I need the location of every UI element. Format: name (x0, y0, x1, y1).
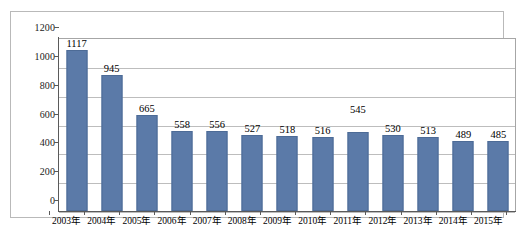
y-axis-tick-label: 600 (40, 108, 55, 119)
plot-area: 1117945665558556527518516545530513489485 (59, 38, 516, 211)
bar[interactable] (242, 135, 263, 211)
y-axis-tick-label: 400 (40, 137, 55, 148)
x-axis-category-label: 2013年 (404, 213, 433, 227)
x-axis-tick-mark (154, 211, 155, 215)
x-axis-category-label: 2003年 (52, 213, 81, 227)
x-axis-category-label: 2014年 (439, 213, 468, 227)
bar-value-label: 527 (244, 123, 260, 134)
bar[interactable] (66, 50, 87, 211)
bar-slot: 513 (411, 39, 446, 211)
bar-slot: 516 (305, 39, 340, 211)
bar[interactable] (172, 131, 193, 211)
bar[interactable] (418, 137, 439, 211)
bar-value-label: 545 (350, 104, 366, 115)
x-axis-category-label: 2008年 (228, 213, 257, 227)
bar-value-label: 558 (174, 119, 190, 130)
x-axis-tick-mark (260, 211, 261, 215)
bar-slot: 556 (200, 39, 235, 211)
x-axis-tick-mark (84, 211, 85, 215)
bar[interactable] (347, 132, 368, 211)
x-axis-tick-mark (190, 211, 191, 215)
x-axis-category-label: 2004年 (87, 213, 116, 227)
x-axis-tick-mark (330, 211, 331, 215)
bar-value-label: 556 (209, 119, 225, 130)
bar-value-label: 516 (315, 125, 331, 136)
bar-slot: 665 (129, 39, 164, 211)
bar-slot: 545 (340, 39, 375, 211)
bar-slot: 489 (446, 39, 481, 211)
bar[interactable] (488, 141, 509, 211)
x-axis-category-label: 2009年 (263, 213, 292, 227)
y-axis-tick-label: 1000 (35, 50, 55, 61)
bar-slot: 527 (235, 39, 270, 211)
bar[interactable] (277, 136, 298, 211)
bar[interactable] (101, 75, 122, 211)
bar-value-label: 1117 (66, 38, 86, 49)
x-axis-category-label: 2012年 (368, 213, 397, 227)
bar-value-label: 485 (491, 129, 507, 140)
x-axis-tick-mark (471, 211, 472, 215)
bar-value-label: 518 (280, 124, 296, 135)
bar[interactable] (207, 131, 228, 211)
bar-slot: 485 (481, 39, 516, 211)
y-axis-tick-mark (54, 27, 59, 28)
bar-value-label: 665 (139, 103, 155, 114)
y-axis-tick-label: 800 (40, 79, 55, 90)
bar-slot: 518 (270, 39, 305, 211)
x-axis-tick-mark (295, 211, 296, 215)
x-axis-tick-mark (436, 211, 437, 215)
x-axis-category-label: 2006年 (158, 213, 187, 227)
bar-slot: 945 (94, 39, 129, 211)
x-axis-category-label: 2010年 (298, 213, 327, 227)
bar-value-label: 530 (385, 123, 401, 134)
bar[interactable] (382, 135, 403, 211)
bar[interactable] (453, 141, 474, 211)
bar-slot: 1117 (59, 39, 94, 211)
x-axis-tick-mark (506, 211, 507, 215)
bar-slot: 530 (375, 39, 410, 211)
y-axis-tick-labels: 020040060080010001200 (11, 12, 55, 235)
x-axis-category-label: 2007年 (193, 213, 222, 227)
bar-value-label: 945 (104, 63, 120, 74)
x-axis-tick-mark (225, 211, 226, 215)
x-axis-tick-mark (119, 211, 120, 215)
bar-value-label: 489 (455, 129, 471, 140)
y-axis-tick-label: 1200 (35, 22, 55, 33)
bar-value-label: 513 (420, 125, 436, 136)
x-axis-tick-mark (365, 211, 366, 215)
x-axis-category-label: 2015年 (474, 213, 503, 227)
x-axis-tick-mark (401, 211, 402, 215)
chart-outer-frame: 020040060080010001200 111794566555855652… (10, 11, 504, 218)
bar[interactable] (312, 137, 333, 211)
y-axis-tick-label: 200 (40, 166, 55, 177)
x-axis-tick-mark (49, 211, 50, 215)
x-axis-category-label: 2005年 (122, 213, 151, 227)
bar-slot: 558 (164, 39, 199, 211)
x-axis-category-label: 2011年 (333, 213, 362, 227)
bar[interactable] (136, 115, 157, 211)
